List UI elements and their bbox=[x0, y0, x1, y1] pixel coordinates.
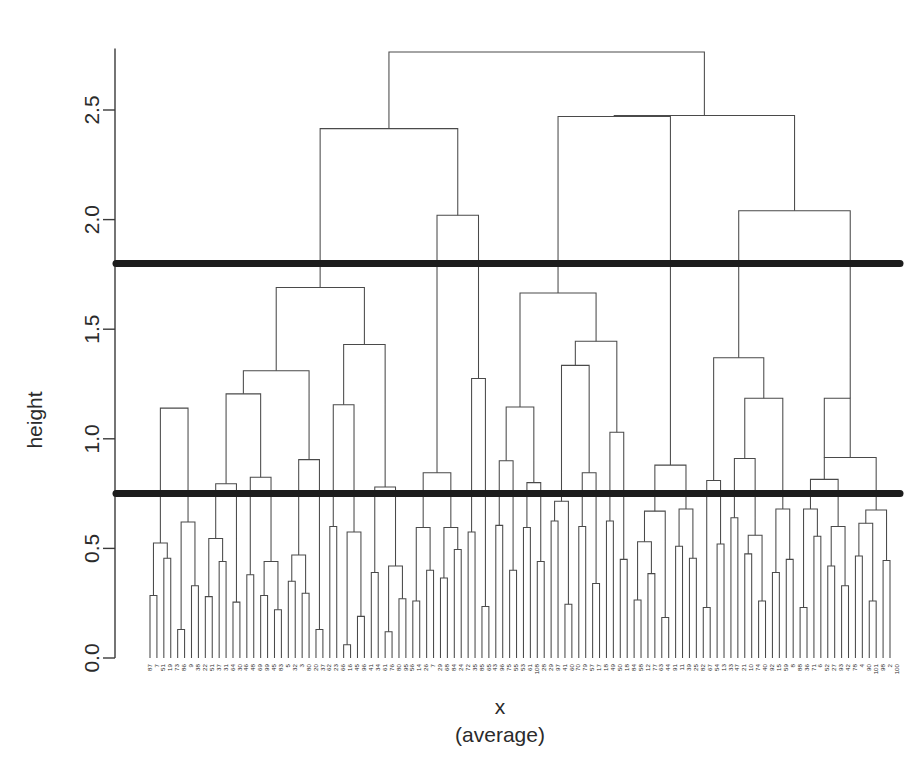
dendrogram-link bbox=[748, 535, 762, 601]
dendrogram-link bbox=[347, 532, 361, 645]
dendrogram-link bbox=[859, 523, 873, 601]
dendrogram-link bbox=[226, 394, 261, 484]
dendrogram-link bbox=[759, 601, 766, 658]
dendrogram-link bbox=[468, 532, 475, 658]
dendrogram-link bbox=[662, 617, 669, 658]
dendrogram-link bbox=[638, 542, 652, 600]
dendrogram-link bbox=[264, 562, 278, 610]
dendrogram-link bbox=[523, 528, 530, 658]
dendrogram-link bbox=[558, 117, 670, 466]
dendrogram-link bbox=[344, 645, 351, 658]
dendrogram-link bbox=[606, 521, 613, 658]
dendrogram-link bbox=[776, 509, 790, 573]
dendrogram-link bbox=[357, 616, 364, 658]
dendrogram-link bbox=[261, 596, 268, 658]
dendrogram-link bbox=[178, 630, 185, 658]
dendrogram-link bbox=[510, 570, 517, 658]
dendrogram-link bbox=[565, 604, 572, 658]
dendrogram-link bbox=[739, 211, 851, 398]
dendrogram-link bbox=[561, 365, 589, 501]
dendrogram-link bbox=[745, 554, 752, 658]
dendrogram-link bbox=[634, 600, 641, 658]
dendrogram-link bbox=[330, 526, 337, 658]
dendrogram-link bbox=[302, 593, 309, 658]
dendrogram-link bbox=[810, 479, 838, 526]
dendrogram-link bbox=[717, 544, 724, 658]
dendrogram-link bbox=[153, 543, 167, 596]
dendrogram-link bbox=[582, 473, 596, 584]
dendrogram-link bbox=[537, 562, 544, 658]
dendrogram-link bbox=[648, 574, 655, 658]
dendrogram-link bbox=[824, 398, 850, 457]
dendrogram-link bbox=[676, 546, 683, 658]
dendrogram-link bbox=[786, 559, 793, 658]
y-axis-title: height bbox=[23, 391, 46, 448]
dendrogram-link bbox=[842, 586, 849, 658]
dendrogram-link bbox=[800, 608, 807, 658]
dendrogram-link bbox=[385, 632, 392, 658]
dendrogram-link bbox=[427, 570, 434, 658]
dendrogram-link bbox=[772, 573, 779, 658]
dendrogram-link bbox=[454, 549, 461, 658]
dendrogram-link bbox=[593, 583, 600, 658]
dendrogram-link bbox=[555, 501, 569, 604]
y-tick-label: 2.0 bbox=[80, 205, 103, 234]
dendrogram-link bbox=[855, 556, 862, 658]
dendrogram-link bbox=[824, 457, 876, 510]
dendrogram-link bbox=[437, 215, 478, 473]
dendrogram-link bbox=[620, 559, 627, 658]
x-axis-subtitle: (average) bbox=[455, 723, 545, 746]
dendrogram-link bbox=[150, 596, 157, 658]
dendrogram-links bbox=[150, 52, 890, 658]
y-tick-label: 0.5 bbox=[80, 534, 103, 563]
dendrogram-link bbox=[499, 461, 513, 571]
dendrogram-link bbox=[814, 536, 821, 658]
dendrogram-link bbox=[883, 560, 890, 658]
dendrogram-link bbox=[205, 597, 212, 658]
dendrogram-link bbox=[292, 555, 306, 593]
y-axis: 0.00.51.01.52.02.5 bbox=[80, 49, 115, 673]
dendrogram-figure: 0.00.51.01.52.02.5 877511973869382251373… bbox=[0, 0, 912, 761]
dendrogram-link bbox=[219, 562, 226, 658]
dendrogram-link bbox=[869, 601, 876, 658]
y-tick-label: 2.5 bbox=[80, 95, 103, 124]
y-tick-label: 0.0 bbox=[80, 643, 103, 672]
dendrogram-link bbox=[831, 526, 845, 585]
dendrogram-link bbox=[828, 566, 835, 658]
dendrogram-link bbox=[804, 509, 818, 608]
dendrogram-link bbox=[506, 407, 534, 483]
dendrogram-link bbox=[444, 528, 458, 578]
dendrogram-link bbox=[482, 606, 489, 658]
dendrogram-link bbox=[416, 528, 430, 601]
x-axis-title: x bbox=[495, 695, 506, 718]
dendrogram-link bbox=[389, 52, 704, 129]
leaf-label: 100 bbox=[893, 663, 900, 674]
dendrogram-link bbox=[371, 573, 378, 658]
dendrogram-link bbox=[714, 358, 764, 481]
dendrogram-link bbox=[689, 558, 696, 658]
dendrogram-link bbox=[276, 288, 364, 371]
dendrogram-link bbox=[423, 473, 451, 528]
dendrogram-link bbox=[191, 586, 198, 658]
dendrogram-link bbox=[243, 371, 309, 460]
dendrogram-link bbox=[866, 510, 887, 560]
dendrogram-link bbox=[440, 578, 447, 658]
dendrogram-link bbox=[344, 345, 385, 487]
dendrogram-link bbox=[209, 539, 223, 597]
y-tick-label: 1.0 bbox=[80, 424, 103, 453]
dendrogram-link bbox=[575, 341, 616, 432]
dendrogram-link bbox=[520, 293, 596, 407]
y-tick-label: 1.5 bbox=[80, 315, 103, 344]
dendrogram-link bbox=[579, 526, 586, 658]
dendrogram-link bbox=[247, 575, 254, 658]
dendrogram-link bbox=[703, 608, 710, 658]
dendrogram-svg: 0.00.51.01.52.02.5 877511973869382251373… bbox=[0, 0, 912, 761]
dendrogram-link bbox=[375, 487, 396, 572]
dendrogram-link bbox=[731, 518, 738, 658]
dendrogram-link bbox=[316, 630, 323, 658]
dendrogram-link bbox=[274, 610, 281, 658]
dendrogram-link bbox=[233, 602, 240, 658]
dendrogram-link bbox=[413, 601, 420, 658]
dendrogram-link bbox=[655, 465, 686, 511]
dendrogram-link bbox=[399, 599, 406, 658]
